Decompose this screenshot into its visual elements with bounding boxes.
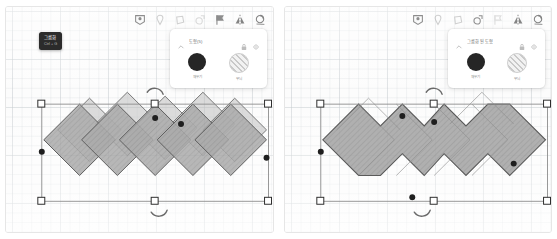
duplicate-icon[interactable]	[471, 13, 485, 27]
tooltip-title: 그룹화	[44, 35, 57, 42]
properties-panel-before[interactable]: 도형(5) 채우기	[170, 29, 267, 88]
chevron-up-icon[interactable]	[455, 37, 463, 45]
flip-horizontal-icon[interactable]	[511, 13, 525, 27]
lock-icon[interactable]	[518, 37, 526, 45]
duplicate-icon[interactable]	[193, 13, 207, 27]
pin-icon[interactable]	[153, 13, 167, 27]
lock-icon[interactable]	[240, 37, 248, 45]
shape-icon[interactable]	[173, 13, 187, 27]
badge-icon[interactable]	[411, 13, 425, 27]
eye-icon[interactable]	[530, 37, 538, 45]
pin-icon[interactable]	[431, 13, 445, 27]
pattern-swatch-label: 무늬	[514, 76, 520, 81]
pattern-dot[interactable]	[229, 53, 249, 73]
panel-title: 도형(5)	[189, 38, 236, 44]
flag-icon[interactable]	[213, 13, 227, 27]
properties-panel-after[interactable]: 그룹화된 도형 채우기	[448, 29, 545, 88]
flag-icon[interactable]	[491, 13, 505, 27]
panel-swatches: 채우기 무늬	[177, 53, 260, 81]
pattern-dot[interactable]	[507, 53, 527, 73]
shape-icon[interactable]	[451, 13, 465, 27]
toolbar-before[interactable]	[133, 13, 267, 27]
fill-color-dot[interactable]	[467, 53, 485, 71]
panel-swatches: 채우기 무늬	[455, 53, 538, 81]
panel-title: 그룹화된 도형	[467, 38, 514, 44]
pattern-swatch-label: 무늬	[236, 76, 242, 81]
pattern-swatch[interactable]: 무늬	[221, 53, 257, 81]
badge-icon[interactable]	[133, 13, 147, 27]
rotate-icon[interactable]	[531, 13, 545, 27]
toolbar-after[interactable]	[411, 13, 545, 27]
fill-swatch-label: 채우기	[193, 74, 202, 79]
fill-swatch[interactable]: 채우기	[458, 53, 494, 79]
fill-swatch[interactable]: 채우기	[179, 53, 215, 79]
fill-color-dot[interactable]	[188, 53, 206, 71]
screenshot-after: 그룹화된 도형 채우기	[284, 6, 553, 233]
panel-header[interactable]: 그룹화된 도형	[455, 34, 538, 47]
comparison-stage: 도형(5) 채우기	[0, 0, 557, 239]
rotate-icon[interactable]	[253, 13, 267, 27]
tooltip-shortcut: Ctrl + G	[44, 42, 57, 48]
pattern-swatch[interactable]: 무늬	[499, 53, 535, 81]
screenshot-before: 도형(5) 채우기	[5, 6, 274, 233]
flip-horizontal-icon[interactable]	[233, 13, 247, 27]
group-tooltip: 그룹화 Ctrl + G	[39, 32, 62, 50]
chevron-up-icon[interactable]	[177, 37, 185, 45]
eye-icon[interactable]	[252, 37, 260, 45]
panel-header[interactable]: 도형(5)	[177, 34, 260, 47]
fill-swatch-label: 채우기	[471, 74, 480, 79]
